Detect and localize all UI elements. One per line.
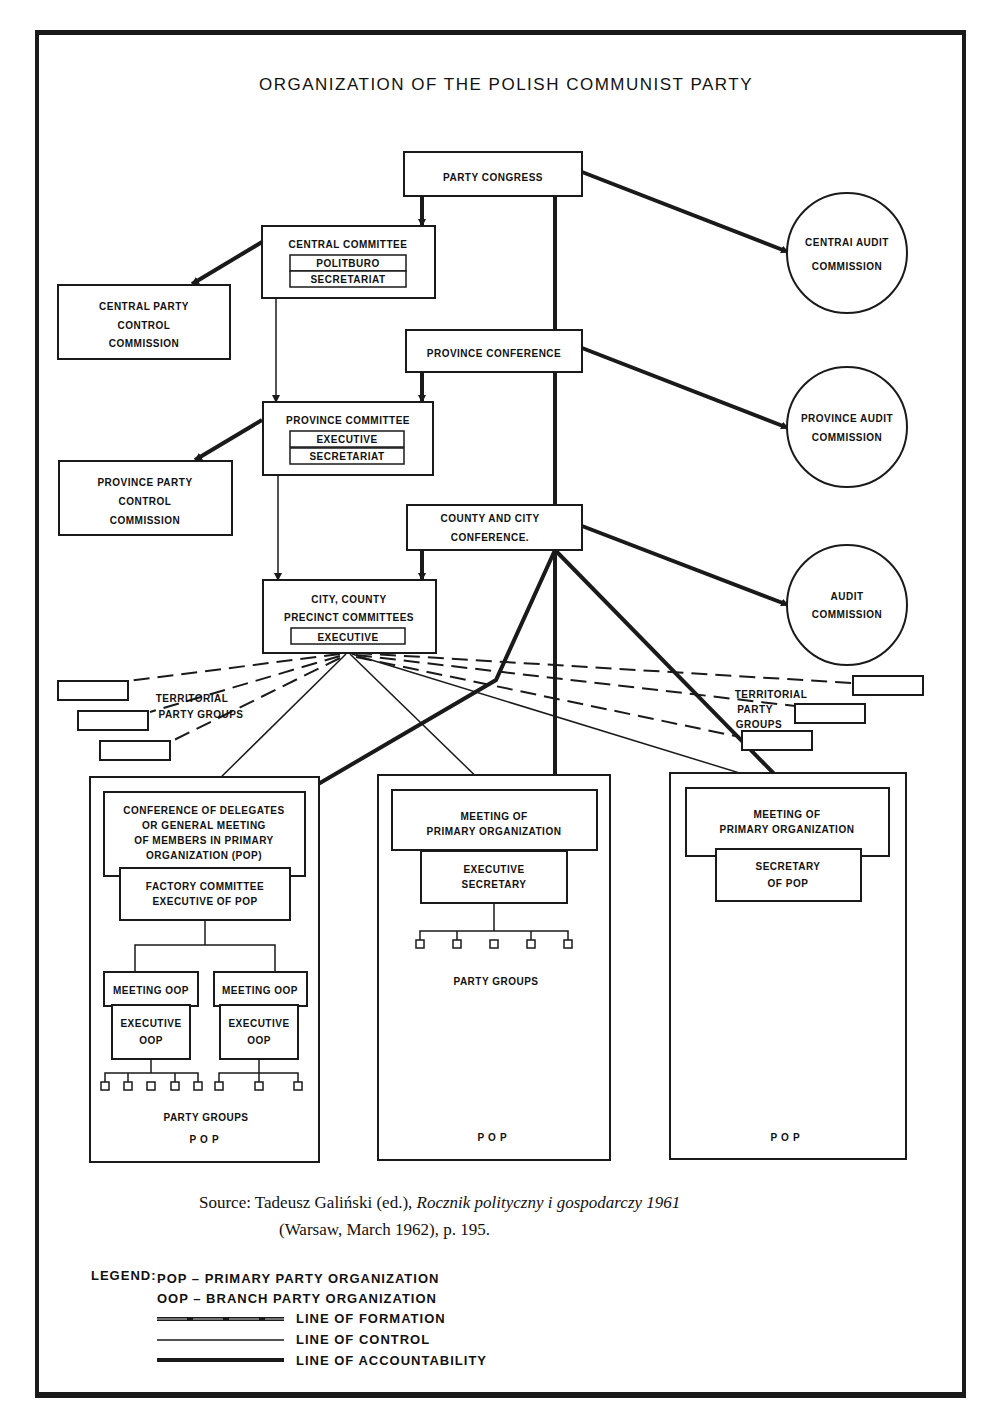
svg-text:PARTY CONGRESS: PARTY CONGRESS bbox=[443, 172, 543, 183]
svg-text:CENTRAL PARTY: CENTRAL PARTY bbox=[99, 301, 189, 312]
svg-text:GROUPS: GROUPS bbox=[736, 719, 782, 730]
audit-line bbox=[582, 526, 788, 605]
svg-text:SECRETARY: SECRETARY bbox=[461, 879, 526, 890]
svg-text:POP: POP bbox=[477, 1132, 510, 1143]
svg-text:LINE OF ACCOUNTABILITY: LINE OF ACCOUNTABILITY bbox=[296, 1353, 487, 1368]
svg-text:TERRITORIAL: TERRITORIAL bbox=[735, 689, 808, 700]
svg-text:SECRETARIAT: SECRETARIAT bbox=[310, 274, 385, 285]
svg-text:COUNTY AND CITY: COUNTY AND CITY bbox=[440, 513, 539, 524]
svg-text:POP – PRIMARY PARTY ORGANIZATI: POP – PRIMARY PARTY ORGANIZATION bbox=[157, 1271, 439, 1286]
svg-text:LINE OF FORMATION: LINE OF FORMATION bbox=[296, 1311, 446, 1326]
svg-text:PRIMARY ORGANIZATION: PRIMARY ORGANIZATION bbox=[720, 824, 855, 835]
territorial-line bbox=[356, 657, 740, 737]
svg-text:AUDIT: AUDIT bbox=[830, 591, 863, 602]
svg-text:OR GENERAL MEETING: OR GENERAL MEETING bbox=[142, 820, 266, 831]
control-line bbox=[352, 654, 782, 786]
audit-line bbox=[582, 348, 788, 428]
svg-text:POP: POP bbox=[189, 1134, 222, 1145]
svg-text:EXECUTIVE: EXECUTIVE bbox=[228, 1018, 289, 1029]
svg-text:OOP – BRANCH PARTY ORGANIZATIO: OOP – BRANCH PARTY ORGANIZATION bbox=[157, 1291, 437, 1306]
svg-text:SECRETARIAT: SECRETARIAT bbox=[309, 451, 384, 462]
svg-text:LINE OF CONTROL: LINE OF CONTROL bbox=[296, 1332, 430, 1347]
svg-text:EXECUTIVE: EXECUTIVE bbox=[463, 864, 524, 875]
svg-text:OF POP: OF POP bbox=[768, 878, 809, 889]
node-province-audit-commission[interactable]: PROVINCE AUDIT COMMISSION bbox=[787, 367, 907, 487]
org-chart: ORGANIZATION OF THE POLISH COMMUNIST PAR… bbox=[0, 0, 987, 1422]
svg-text:PARTY GROUPS: PARTY GROUPS bbox=[163, 1112, 248, 1123]
audit-line bbox=[582, 172, 788, 252]
svg-text:EXECUTIVE: EXECUTIVE bbox=[317, 632, 378, 643]
svg-text:MEETING OOP: MEETING OOP bbox=[113, 985, 189, 996]
svg-text:EXECUTIVE OF POP: EXECUTIVE OF POP bbox=[152, 896, 257, 907]
svg-text:PROVINCE AUDIT: PROVINCE AUDIT bbox=[801, 413, 893, 424]
territorial-line bbox=[356, 655, 795, 706]
svg-text:LEGEND:: LEGEND: bbox=[91, 1268, 157, 1283]
svg-text:OF MEMBERS IN PRIMARY: OF MEMBERS IN PRIMARY bbox=[134, 835, 274, 846]
svg-text:TERRITORIAL: TERRITORIAL bbox=[156, 693, 229, 704]
svg-text:COMMISSION: COMMISSION bbox=[110, 515, 181, 526]
node-central-party-control-commission[interactable]: CENTRAL PARTY CONTROL COMMISSION bbox=[58, 285, 230, 359]
svg-text:PROVINCE PARTY: PROVINCE PARTY bbox=[97, 477, 192, 488]
node-city-county-committees[interactable]: CITY, COUNTY PRECINCT COMMITTEES EXECUTI… bbox=[263, 580, 436, 653]
territorial-line bbox=[128, 654, 340, 681]
svg-text:COMMISSION: COMMISSION bbox=[812, 261, 883, 272]
svg-text:CONTROL: CONTROL bbox=[118, 320, 171, 331]
node-central-committee[interactable]: CENTRAL COMMITTEE POLITBURO SECRETARIAT bbox=[262, 226, 435, 298]
svg-text:PRIMARY ORGANIZATION: PRIMARY ORGANIZATION bbox=[427, 826, 562, 837]
svg-text:CONFERENCE OF DELEGATES: CONFERENCE OF DELEGATES bbox=[123, 805, 284, 816]
pop-panel-small[interactable]: MEETING OF PRIMARY ORGANIZATION SECRETAR… bbox=[670, 773, 906, 1159]
control-commission-line bbox=[195, 420, 262, 460]
svg-text:POP: POP bbox=[770, 1132, 803, 1143]
node-province-conference[interactable]: PROVINCE CONFERENCE bbox=[406, 330, 582, 372]
node-audit-commission[interactable]: AUDIT COMMISSION bbox=[787, 545, 907, 665]
svg-text:OOP: OOP bbox=[139, 1035, 163, 1046]
control-commission-line bbox=[192, 242, 262, 284]
svg-text:COMMISSION: COMMISSION bbox=[812, 609, 883, 620]
svg-text:PROVINCE CONFERENCE: PROVINCE CONFERENCE bbox=[427, 348, 562, 359]
svg-text:CONTROL: CONTROL bbox=[119, 496, 172, 507]
svg-text:PARTY GROUPS: PARTY GROUPS bbox=[158, 709, 243, 720]
svg-text:SECRETARY: SECRETARY bbox=[755, 861, 820, 872]
node-province-party-control-commission[interactable]: PROVINCE PARTY CONTROL COMMISSION bbox=[59, 461, 232, 535]
node-county-city-conference[interactable]: COUNTY AND CITY CONFERENCE. bbox=[407, 505, 582, 550]
source-citation-line2: (Warsaw, March 1962), p. 195. bbox=[279, 1220, 490, 1239]
svg-text:PARTY GROUPS: PARTY GROUPS bbox=[453, 976, 538, 987]
node-central-audit-commission[interactable]: CENTRAI AUDIT COMMISSION bbox=[787, 193, 907, 313]
svg-text:PRECINCT COMMITTEES: PRECINCT COMMITTEES bbox=[284, 612, 414, 623]
svg-text:CENTRAI AUDIT: CENTRAI AUDIT bbox=[805, 237, 889, 248]
pop-panel-standard[interactable]: MEETING OF PRIMARY ORGANIZATION EXECUTIV… bbox=[378, 775, 610, 1160]
svg-text:MEETING OF: MEETING OF bbox=[460, 811, 527, 822]
svg-text:OOP: OOP bbox=[247, 1035, 271, 1046]
svg-text:ORGANIZATION (POP): ORGANIZATION (POP) bbox=[146, 850, 262, 861]
svg-text:CENTRAL COMMITTEE: CENTRAL COMMITTEE bbox=[289, 239, 408, 250]
svg-text:MEETING OF: MEETING OF bbox=[753, 809, 820, 820]
svg-text:COMMISSION: COMMISSION bbox=[109, 338, 180, 349]
svg-text:CITY, COUNTY: CITY, COUNTY bbox=[311, 594, 386, 605]
legend: LEGEND: POP – PRIMARY PARTY ORGANIZATION… bbox=[91, 1268, 487, 1368]
svg-text:POLITBURO: POLITBURO bbox=[316, 258, 379, 269]
svg-text:EXECUTIVE: EXECUTIVE bbox=[120, 1018, 181, 1029]
svg-text:EXECUTIVE: EXECUTIVE bbox=[316, 434, 377, 445]
svg-text:COMMISSION: COMMISSION bbox=[812, 432, 883, 443]
territorial-groups-left[interactable]: TERRITORIAL PARTY GROUPS bbox=[58, 681, 244, 760]
svg-text:FACTORY COMMITTEE: FACTORY COMMITTEE bbox=[146, 881, 264, 892]
pop-panel-factory[interactable]: CONFERENCE OF DELEGATES OR GENERAL MEETI… bbox=[90, 777, 319, 1162]
svg-text:PARTY: PARTY bbox=[737, 704, 773, 715]
diagram-title: ORGANIZATION OF THE POLISH COMMUNIST PAR… bbox=[259, 75, 753, 94]
node-party-congress[interactable]: PARTY CONGRESS bbox=[404, 152, 582, 196]
node-province-committee[interactable]: PROVINCE COMMITTEE EXECUTIVE SECRETARIAT bbox=[263, 402, 433, 475]
svg-text:CONFERENCE.: CONFERENCE. bbox=[451, 532, 529, 543]
source-citation: Source: Tadeusz Galiński (ed.), Rocznik … bbox=[199, 1193, 680, 1212]
svg-text:PROVINCE COMMITTEE: PROVINCE COMMITTEE bbox=[286, 415, 410, 426]
svg-text:MEETING OOP: MEETING OOP bbox=[222, 985, 298, 996]
territorial-groups-right[interactable]: TERRITORIAL PARTY GROUPS bbox=[735, 676, 923, 750]
